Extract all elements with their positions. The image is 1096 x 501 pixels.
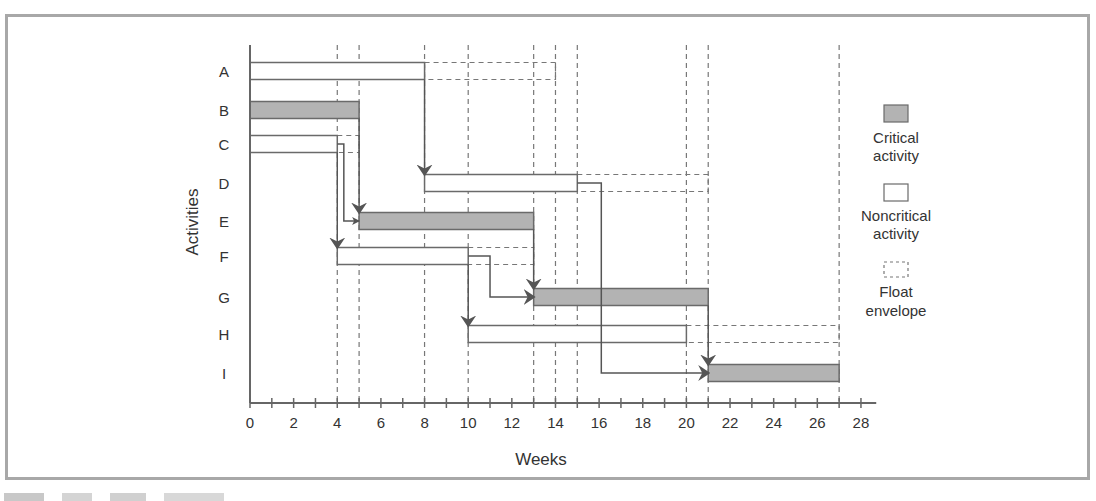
legend-label-critical-line2: activity	[873, 147, 919, 164]
activity-bars	[250, 63, 839, 382]
float-envelope-A	[425, 63, 556, 80]
noncritical-bar-H	[468, 326, 686, 343]
x-axis-title: Weeks	[515, 450, 567, 469]
x-tick-label-28: 28	[853, 414, 870, 431]
caption-cutoff	[0, 490, 700, 501]
activity-label-D: D	[219, 175, 230, 192]
activity-label-E: E	[219, 213, 229, 230]
activity-label-F: F	[219, 248, 228, 265]
critical-bar-I	[708, 365, 839, 382]
x-tick-label-12: 12	[503, 414, 520, 431]
arrow-C-E	[337, 144, 359, 221]
legend-noncritical-swatch	[884, 184, 908, 201]
arrow-F-G	[468, 256, 533, 297]
activity-label-G: G	[218, 289, 230, 306]
x-tick-label-4: 4	[333, 414, 341, 431]
activity-label-C: C	[219, 136, 230, 153]
activity-label-I: I	[222, 365, 226, 382]
noncritical-bar-F	[337, 248, 468, 265]
x-tick-label-22: 22	[722, 414, 739, 431]
legend-float-swatch	[884, 262, 908, 277]
x-tick-label-18: 18	[634, 414, 651, 431]
critical-bar-G	[534, 289, 709, 306]
activity-label-H: H	[219, 326, 230, 343]
activity-label-B: B	[219, 102, 229, 119]
x-tick-label-20: 20	[678, 414, 695, 431]
x-tick-label-2: 2	[289, 414, 297, 431]
noncritical-bar-A	[250, 63, 425, 80]
legend-label-float-line2: envelope	[866, 302, 927, 319]
noncritical-bar-D	[425, 175, 578, 192]
x-tick-label-14: 14	[547, 414, 564, 431]
critical-bar-B	[250, 102, 359, 119]
x-tick-label-6: 6	[377, 414, 385, 431]
x-tick-label-24: 24	[765, 414, 782, 431]
legend-label-critical: Critical	[873, 129, 919, 146]
arrow-D-I	[577, 183, 708, 373]
critical-bar-E	[359, 213, 534, 230]
noncritical-bar-C	[250, 136, 337, 153]
gantt-chart: ABCDEFGHI0246810121416182022242628WeeksA…	[0, 0, 1096, 501]
activity-label-A: A	[219, 63, 229, 80]
y-axis-title: Activities	[183, 188, 202, 255]
x-tick-label-26: 26	[809, 414, 826, 431]
x-tick-label-16: 16	[591, 414, 608, 431]
legend-label-noncritical-line2: activity	[873, 225, 919, 242]
legend-critical-swatch	[884, 105, 908, 122]
legend: CriticalactivityNoncriticalactivityFloat…	[861, 105, 931, 319]
float-envelope-H	[686, 326, 839, 343]
x-tick-label-8: 8	[420, 414, 428, 431]
x-tick-label-0: 0	[246, 414, 254, 431]
legend-label-float: Float	[879, 283, 913, 300]
x-tick-label-10: 10	[460, 414, 477, 431]
legend-label-noncritical: Noncritical	[861, 207, 931, 224]
